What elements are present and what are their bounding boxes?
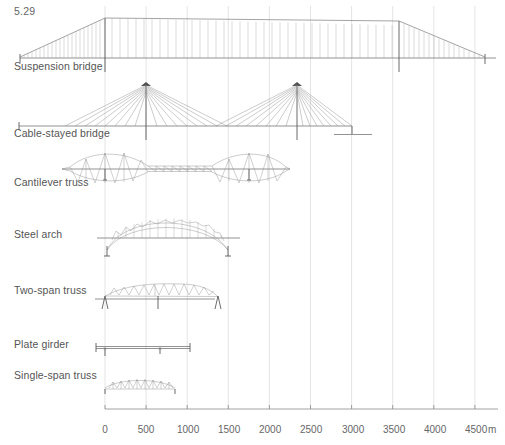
row-label-single-span-truss: Single-span truss: [14, 369, 97, 381]
x-tick-label-500: 500: [136, 424, 156, 435]
row-label-cantilever-truss: Cantilever truss: [14, 176, 89, 188]
row-label-cable-stayed-bridge: Cable-stayed bridge: [14, 127, 110, 139]
x-tick-label-4500: 4500: [465, 424, 485, 435]
x-tick-label-1500: 1500: [218, 424, 238, 435]
x-tick-label-2500: 2500: [300, 424, 320, 435]
x-tick-label-1000: 1000: [177, 424, 197, 435]
x-tick-label-3000: 3000: [342, 424, 362, 435]
row-label-two-span-truss: Two-span truss: [14, 284, 87, 296]
x-tick-label-2000: 2000: [259, 424, 279, 435]
figure-number: 5.29: [14, 5, 35, 17]
row-label-suspension-bridge: Suspension bridge: [14, 60, 103, 72]
x-tick-label-3500: 3500: [383, 424, 403, 435]
x-axis-unit: m: [488, 424, 496, 435]
bridge-cantilever-truss: [62, 153, 290, 183]
bridge-steel-arch: [97, 219, 240, 257]
row-label-plate-girder: Plate girder: [14, 338, 69, 350]
bridge-single-span-truss: [105, 380, 175, 395]
bridge-two-span-truss: [95, 284, 221, 309]
bridge-plate-girder: [96, 343, 190, 356]
bridge-span-comparison-diagram: .grid{stroke:#d9d9d9;stroke-width:0.7;} …: [0, 0, 505, 445]
x-tick-label-4000: 4000: [424, 424, 444, 435]
row-label-steel-arch: Steel arch: [14, 228, 62, 240]
x-axis: [105, 405, 498, 409]
x-tick-label-0: 0: [95, 424, 115, 435]
